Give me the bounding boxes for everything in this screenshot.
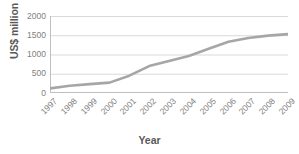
- y-axis-tick-labels: 0500100015002000: [16, 0, 46, 154]
- y-tick-label: 0: [18, 89, 46, 98]
- chart-plot-svg: [50, 16, 288, 93]
- plot-area: [50, 16, 288, 93]
- x-tick-label: 2005: [194, 96, 218, 120]
- y-tick-label: 1000: [18, 50, 46, 59]
- x-tick-label: 2007: [233, 96, 257, 120]
- x-tick-label: 1999: [75, 96, 99, 120]
- x-tick-label: 2002: [134, 96, 158, 120]
- x-tick-label: 2003: [154, 96, 178, 120]
- gridlines: [50, 17, 288, 75]
- x-tick-label: 2006: [214, 96, 238, 120]
- x-axis-title: Year: [0, 134, 299, 146]
- y-tick-label: 500: [18, 69, 46, 78]
- data-series-line: [50, 34, 288, 88]
- x-tick-label: 1998: [55, 96, 79, 120]
- x-tick-label: 2004: [174, 96, 198, 120]
- x-tick-label: 2001: [114, 96, 138, 120]
- chart-container: US$ million 0500100015002000 19971998199…: [0, 0, 299, 154]
- y-tick-label: 2000: [18, 12, 46, 21]
- x-axis-tick-labels: 1997199819992000200120022003200420052006…: [50, 96, 288, 130]
- x-tick-label: 2008: [253, 96, 277, 120]
- x-tick-label: 2009: [273, 96, 297, 120]
- x-tick-label: 2000: [95, 96, 119, 120]
- y-tick-label: 1500: [18, 31, 46, 40]
